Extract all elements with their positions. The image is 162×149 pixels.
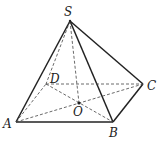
pyramid-diagram: S A B C D O — [0, 0, 162, 149]
edge-SA — [16, 21, 70, 122]
edge-BC — [113, 84, 143, 122]
label-C: C — [147, 79, 156, 93]
label-O: O — [73, 105, 83, 119]
label-A: A — [2, 117, 12, 131]
label-S: S — [64, 5, 72, 19]
label-D: D — [49, 72, 60, 86]
edge-AD — [16, 84, 46, 122]
edge-SC — [70, 21, 143, 84]
point-S-dot — [69, 20, 71, 22]
label-B: B — [108, 126, 118, 140]
